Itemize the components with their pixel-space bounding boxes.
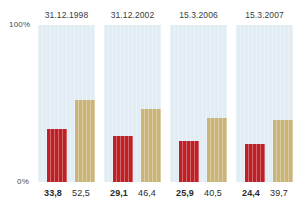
value-label-primary: 24,4 (237, 188, 265, 202)
y-axis-tick-0: 0% (17, 177, 29, 186)
value-label-primary: 25,9 (171, 188, 199, 202)
group-header-label: 15.3.2007 (236, 10, 293, 25)
bar-secondary (207, 118, 227, 182)
bar-group: 31.12.2002 29,1 46,4 (104, 10, 161, 202)
bar-primary (245, 144, 265, 182)
group-header-label: 15.3.2006 (170, 10, 227, 25)
group-header-label: 31.12.1998 (38, 10, 95, 25)
bar-chart: 100% 0% 31.12.1998 33,8 52,5 31.12.2002 … (0, 0, 306, 210)
plot-panel (104, 25, 161, 182)
bar-group: 15.3.2006 25,9 40,5 (170, 10, 227, 202)
bar-secondary (273, 120, 293, 182)
value-label-secondary: 52,5 (67, 188, 95, 202)
bar-group: 31.12.1998 33,8 52,5 (38, 10, 95, 202)
value-label-primary: 33,8 (39, 188, 67, 202)
group-value-labels: 33,8 52,5 (38, 188, 95, 202)
value-label-primary: 29,1 (105, 188, 133, 202)
group-value-labels: 24,4 39,7 (236, 188, 293, 202)
plot-panel (38, 25, 95, 182)
plot-panel (170, 25, 227, 182)
bar-secondary (75, 100, 95, 182)
group-header-label: 31.12.2002 (104, 10, 161, 25)
y-axis-tick-100: 100% (9, 20, 30, 29)
group-value-labels: 25,9 40,5 (170, 188, 227, 202)
value-label-secondary: 39,7 (265, 188, 293, 202)
value-label-secondary: 40,5 (199, 188, 227, 202)
group-value-labels: 29,1 46,4 (104, 188, 161, 202)
bar-group: 15.3.2007 24,4 39,7 (236, 10, 293, 202)
plot-panel (236, 25, 293, 182)
value-label-secondary: 46,4 (133, 188, 161, 202)
bar-primary (179, 141, 199, 182)
bar-primary (113, 136, 133, 182)
bar-primary (47, 129, 67, 182)
bar-secondary (141, 109, 161, 182)
